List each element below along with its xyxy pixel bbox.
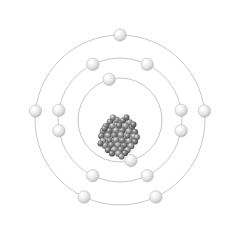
atom-diagram-canvas [0, 0, 241, 240]
nucleon-highlight [107, 129, 109, 131]
nucleon [98, 141, 104, 147]
nucleon-highlight [127, 139, 129, 141]
nucleon-highlight [132, 123, 134, 125]
electron-e2-5 [53, 125, 65, 137]
electron-sphere [125, 154, 137, 166]
nucleon [131, 122, 137, 128]
nucleon [109, 151, 115, 157]
electron-sphere [150, 191, 162, 203]
nucleon-highlight [116, 151, 118, 153]
electron-sphere [78, 191, 90, 203]
electron-e3-4 [78, 191, 90, 203]
electron-highlight [127, 156, 131, 160]
electron-sphere [29, 105, 41, 117]
electron-sphere [175, 104, 187, 116]
electron-e2-7 [141, 170, 153, 182]
nucleon-highlight [122, 143, 124, 145]
atomic-model-figure: Bohr model of an atom Phosphorus K shell… [0, 0, 241, 240]
nucleon-highlight [110, 152, 112, 154]
electron-sphere [141, 170, 153, 182]
nucleon-highlight [111, 116, 113, 118]
electron-highlight [177, 127, 181, 131]
electron-sphere [141, 58, 153, 70]
nucleon-highlight [106, 148, 108, 150]
nucleon-highlight [111, 124, 113, 126]
electron-sphere [53, 104, 65, 116]
electron-e3-5 [150, 191, 162, 203]
nucleon [110, 115, 116, 121]
electron-sphere [53, 125, 65, 137]
nucleon-highlight [101, 139, 103, 141]
nucleon-highlight [109, 143, 111, 145]
nucleon-highlight [126, 134, 128, 136]
nucleon-highlight [112, 147, 114, 149]
nucleon-highlight [119, 133, 121, 135]
electron-highlight [143, 60, 147, 64]
electron-e2-6 [175, 125, 187, 137]
electron-highlight [143, 171, 147, 175]
nucleon-highlight [120, 138, 122, 140]
electron-e3-1 [114, 29, 126, 41]
nucleon-highlight [121, 118, 123, 120]
nucleon-highlight [133, 140, 135, 142]
nucleon [119, 154, 125, 160]
nucleon-highlight [117, 123, 119, 125]
nucleon-highlight [114, 128, 116, 130]
nucleon-highlight [123, 151, 125, 153]
electron-e1-1 [103, 73, 115, 85]
electron-e2-4 [175, 104, 187, 116]
nucleon [102, 126, 108, 132]
nucleon-highlight [106, 133, 108, 135]
electron-highlight [32, 107, 36, 111]
electron-highlight [55, 127, 59, 131]
nucleus-cluster [97, 114, 143, 160]
nucleon-highlight [125, 116, 127, 118]
electron-sphere [114, 29, 126, 41]
electron-highlight [89, 171, 93, 175]
electron-sphere [87, 170, 99, 182]
nucleon-highlight [108, 120, 110, 122]
electron-highlight [105, 75, 109, 79]
nucleon-highlight [127, 120, 129, 122]
electron-e3-3 [198, 105, 210, 117]
electron-highlight [89, 60, 93, 64]
nucleon-highlight [114, 138, 116, 140]
electron-e3-2 [29, 105, 41, 117]
nucleon-highlight [108, 138, 110, 140]
nucleon-highlight [132, 134, 134, 136]
electron-highlight [55, 106, 59, 110]
electron-sphere [103, 73, 115, 85]
nucleon-highlight [119, 147, 121, 149]
electron-e2-2 [141, 58, 153, 70]
electron-highlight [152, 193, 156, 197]
nucleon-highlight [135, 135, 137, 137]
nucleon-highlight [116, 143, 118, 145]
electron-highlight [80, 193, 84, 197]
nucleon-highlight [126, 148, 128, 150]
electron-highlight [177, 106, 181, 110]
nucleon-highlight [112, 133, 114, 135]
nucleon-highlight [99, 142, 101, 144]
nucleon-highlight [103, 127, 105, 129]
electron-sphere [198, 105, 210, 117]
electron-highlight [116, 31, 120, 35]
electron-e2-1 [87, 58, 99, 70]
electron-sphere [87, 58, 99, 70]
nucleon-highlight [99, 134, 101, 136]
nucleon-highlight [120, 128, 122, 130]
nucleon [124, 115, 130, 121]
nucleon-highlight [127, 129, 129, 131]
electron-e1-2 [125, 154, 137, 166]
electron-e2-8 [87, 170, 99, 182]
nucleon-highlight [133, 130, 135, 132]
electron-sphere [175, 125, 187, 137]
electron-e2-3 [53, 104, 65, 116]
electron-highlight [201, 107, 205, 111]
nucleon-highlight [123, 124, 125, 126]
nucleon-highlight [129, 144, 131, 146]
nucleon-highlight [120, 155, 122, 157]
nucleon [134, 134, 140, 140]
